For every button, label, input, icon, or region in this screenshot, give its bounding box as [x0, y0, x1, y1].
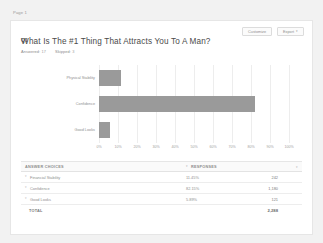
x-axis-tick-label: 30% [152, 145, 159, 149]
survey-results-page: Page 1 Q1 What Is The #1 Thing That Attr… [0, 0, 323, 243]
row-caret-icon[interactable]: ▾ [25, 175, 27, 178]
bar[interactable] [99, 122, 110, 138]
chart-bars: Physical StabilityConfidenceGood Looks [99, 65, 289, 143]
sort-caret-icon-responses[interactable]: ▾ [296, 165, 302, 169]
column-header-choices: ANSWER CHOICES [25, 165, 64, 169]
table-body: ▾Financial Stability11.45%242▾Confidence… [21, 172, 302, 205]
answered-value: 17 [41, 49, 46, 54]
bar-category-label: Good Looks [35, 128, 95, 133]
cell-percent: 11.45% [186, 175, 246, 180]
page-label: Page 1 [13, 10, 27, 15]
chart-plot-area: Physical StabilityConfidenceGood Looks [99, 65, 289, 143]
table-row: ▾Good Looks5.89%121 [21, 194, 302, 205]
x-axis-tick-label: 60% [209, 145, 216, 149]
cell-count: 242 [249, 175, 283, 180]
cell-choice: Good Looks [30, 197, 51, 202]
answered-label: Answered: [21, 49, 40, 54]
bar[interactable] [99, 96, 255, 112]
bar-row: Physical Stability [99, 70, 289, 86]
x-axis-tick-label: 50% [190, 145, 197, 149]
x-axis-tick-label: 0% [96, 145, 101, 149]
table-total-row: TOTAL 2,288 [21, 205, 302, 216]
export-button[interactable]: Export ▾ [277, 27, 304, 36]
cell-percent: 5.89% [186, 197, 246, 202]
responses-table: ANSWER CHOICES ▾ RESPONSES ▾ ▾Financial … [21, 161, 302, 216]
answered-stat: Answered: 17 [21, 49, 46, 54]
page-title: What Is The #1 Thing That Attracts You T… [21, 37, 211, 46]
question-result-card: Q1 What Is The #1 Thing That Attracts Yo… [10, 20, 313, 235]
bar-category-label: Physical Stability [35, 76, 95, 81]
card-actions: Customize Export ▾ [242, 27, 304, 36]
row-caret-icon[interactable]: ▾ [25, 186, 27, 189]
x-axis-tick-label: 20% [133, 145, 140, 149]
response-meta: Answered: 17 Skipped: 3 [21, 49, 74, 54]
x-axis-tick-label: 10% [114, 145, 121, 149]
x-axis-tick-label: 100% [284, 145, 293, 149]
cell-choice: Confidence [30, 186, 50, 191]
skipped-label: Skipped: [55, 49, 71, 54]
export-button-label: Export [283, 30, 294, 34]
bar-row: Confidence [99, 96, 289, 112]
chevron-down-icon: ▾ [296, 30, 298, 33]
x-axis-tick-label: 80% [247, 145, 254, 149]
bar[interactable] [99, 70, 121, 86]
cell-choice: Financial Stability [30, 175, 60, 180]
x-axis-tick-label: 40% [171, 145, 178, 149]
cell-count: 121 [249, 197, 283, 202]
row-caret-icon[interactable]: ▾ [25, 197, 27, 200]
column-header-responses: RESPONSES [191, 165, 217, 169]
table-header-row: ANSWER CHOICES ▾ RESPONSES ▾ [21, 161, 302, 172]
sort-caret-icon-choices[interactable]: ▾ [186, 165, 188, 168]
total-value: 2,288 [249, 208, 283, 213]
total-label: TOTAL [25, 208, 43, 213]
customize-button-label: Customize [248, 30, 266, 34]
x-axis-tick-label: 70% [228, 145, 235, 149]
cell-percent: 82.15% [186, 186, 246, 191]
skipped-stat: Skipped: 3 [55, 49, 74, 54]
skipped-value: 3 [72, 49, 74, 54]
table-row: ▾Financial Stability11.45%242 [21, 172, 302, 183]
bar-category-label: Confidence [35, 102, 95, 107]
cell-count: 1,180 [249, 186, 283, 191]
customize-button[interactable]: Customize [242, 27, 272, 36]
x-axis-tick-label: 90% [266, 145, 273, 149]
chart-x-axis: 0%10%20%30%40%50%60%70%80%90%100% [99, 145, 289, 153]
gridline [289, 65, 290, 143]
bar-chart: Physical StabilityConfidenceGood Looks 0… [11, 61, 314, 159]
table-row: ▾Confidence82.15%1,180 [21, 183, 302, 194]
bar-row: Good Looks [99, 122, 289, 138]
